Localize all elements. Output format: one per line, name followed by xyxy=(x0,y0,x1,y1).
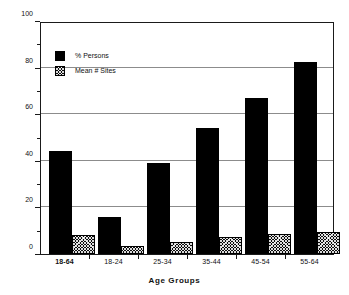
chart-legend: % Persons Mean # Sites xyxy=(55,48,147,78)
x-axis-label-45-54: 45-54 xyxy=(251,258,269,265)
bar-18-24-sites xyxy=(121,246,144,254)
bar-45-54-persons xyxy=(245,98,268,254)
legend-item-1: Mean # Sites xyxy=(55,63,147,78)
x-axis-label-18-64: 18-64 xyxy=(55,258,73,265)
bar-35-44-sites xyxy=(219,237,242,254)
bar-18-64-persons xyxy=(49,151,72,254)
bar-55-64-persons xyxy=(294,62,317,254)
x-axis-title: Age Groups xyxy=(0,276,349,285)
y-tick-label-40: 40 xyxy=(25,150,33,158)
plot-area: % Persons Mean # Sites xyxy=(40,22,334,255)
x-axis-labels: 18-6418-2425-3435-4445-5455-64 xyxy=(40,258,334,272)
bar-25-34-sites xyxy=(170,242,193,254)
gridline-60 xyxy=(41,113,333,114)
y-tick-label-100: 100 xyxy=(21,10,33,18)
x-axis-label-18-24: 18-24 xyxy=(104,258,122,265)
y-tick-label-0: 0 xyxy=(29,243,33,251)
bar-chart-figure: 020406080100 % Persons Mean # Sites 18-6… xyxy=(0,0,349,295)
legend-label-1: Mean # Sites xyxy=(75,67,116,74)
legend-swatch-solid-icon xyxy=(55,51,65,61)
legend-item-0: % Persons xyxy=(55,48,147,63)
gridline-20 xyxy=(41,206,333,207)
gridline-40 xyxy=(41,160,333,161)
x-axis-label-55-64: 55-64 xyxy=(300,258,318,265)
bar-18-24-persons xyxy=(98,217,121,254)
bar-55-64-sites xyxy=(317,232,340,254)
y-tick-label-20: 20 xyxy=(25,196,33,204)
x-axis-label-25-34: 25-34 xyxy=(153,258,171,265)
y-axis: 020406080100 xyxy=(0,22,40,255)
bar-45-54-sites xyxy=(268,234,291,254)
bar-35-44-persons xyxy=(196,128,219,254)
bar-18-64-sites xyxy=(72,235,95,254)
legend-swatch-hatch-icon xyxy=(55,66,65,76)
legend-label-0: % Persons xyxy=(75,52,109,59)
y-tick-label-80: 80 xyxy=(25,57,33,65)
bar-25-34-persons xyxy=(147,163,170,254)
x-axis-label-35-44: 35-44 xyxy=(202,258,220,265)
y-tick-label-60: 60 xyxy=(25,103,33,111)
